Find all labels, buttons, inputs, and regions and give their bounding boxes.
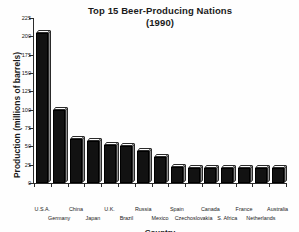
x-tick-mark xyxy=(202,183,203,187)
bar xyxy=(272,168,284,183)
bar xyxy=(70,139,82,183)
bar-face xyxy=(120,146,132,183)
bar-side xyxy=(132,143,135,183)
bar xyxy=(238,168,250,183)
x-tick-label: Canada xyxy=(201,206,220,212)
bar xyxy=(171,167,183,183)
bar-face xyxy=(104,145,116,183)
bar-side xyxy=(183,164,186,183)
x-tick-label: Netherlands xyxy=(246,215,275,221)
bar-face xyxy=(36,33,48,183)
x-tick-label: S. Africa xyxy=(217,215,237,221)
bar-face xyxy=(238,168,250,183)
bar-face xyxy=(87,141,99,183)
bar-side xyxy=(166,155,169,183)
bar-top xyxy=(70,136,85,139)
bar-face xyxy=(188,168,200,183)
x-tick-mark xyxy=(286,183,287,187)
x-tick-mark xyxy=(252,183,253,187)
x-tick-label: China xyxy=(69,206,83,212)
x-tick-mark xyxy=(101,183,102,187)
bar-top xyxy=(238,165,253,168)
x-tick-mark xyxy=(135,183,136,187)
bar-face xyxy=(204,168,216,183)
x-tick-mark xyxy=(168,183,169,187)
bar-face xyxy=(171,167,183,183)
y-tick-label: 0 xyxy=(28,180,31,186)
bar-top xyxy=(221,165,236,168)
bar-top xyxy=(104,142,119,145)
bar-top xyxy=(255,165,270,168)
y-tick-label: 200 xyxy=(22,33,31,39)
x-axis-line xyxy=(33,183,286,184)
chart-figure: Top 15 Beer-Producing Nations (1990) Pro… xyxy=(0,0,299,232)
x-tick-label: Russia xyxy=(135,206,151,212)
bar-face xyxy=(255,168,267,183)
bar xyxy=(255,168,267,183)
bar-side xyxy=(82,136,85,183)
x-tick-mark xyxy=(152,183,153,187)
bar xyxy=(154,157,166,183)
x-tick-mark xyxy=(68,183,69,187)
x-axis-title: Country xyxy=(34,228,286,232)
bar xyxy=(87,141,99,183)
bar xyxy=(204,168,216,183)
bar-side xyxy=(99,139,102,183)
bar-face xyxy=(154,157,166,183)
bar-face xyxy=(272,168,284,183)
bar xyxy=(221,168,233,183)
y-tick-label: 75 xyxy=(25,125,31,131)
bar-side xyxy=(149,149,152,183)
bar-top xyxy=(171,164,186,167)
bar-top xyxy=(53,107,68,110)
x-tick-mark xyxy=(269,183,270,187)
bar-side xyxy=(116,142,119,183)
x-tick-mark xyxy=(118,183,119,187)
y-tick-label: 50 xyxy=(25,143,31,149)
bar xyxy=(120,146,132,183)
x-tick-label: Mexico xyxy=(151,215,168,221)
bar-face xyxy=(221,168,233,183)
x-tick-label: U.K. xyxy=(104,206,114,212)
x-tick-mark xyxy=(84,183,85,187)
x-tick-mark xyxy=(51,183,52,187)
x-tick-label: Japan xyxy=(85,215,100,221)
y-axis-line xyxy=(33,18,34,184)
bar-top xyxy=(87,138,102,141)
x-tick-label: France xyxy=(236,206,253,212)
x-tick-mark xyxy=(236,183,237,187)
bar-face xyxy=(70,139,82,183)
bar-side xyxy=(65,107,68,183)
bar xyxy=(53,110,65,183)
bar-side xyxy=(233,165,236,183)
y-tick-label: 125 xyxy=(22,88,31,94)
y-tick-label: 100 xyxy=(22,107,31,113)
bar xyxy=(137,151,149,183)
plot-area: 0255075100125150175200225 U.S.A.GermanyC… xyxy=(34,18,286,183)
y-tick-label: 225 xyxy=(22,15,31,21)
chart-title: Top 15 Beer-Producing Nations xyxy=(70,5,250,17)
bar-side xyxy=(284,166,287,183)
bar-side xyxy=(216,165,219,183)
x-tick-mark xyxy=(185,183,186,187)
x-tick-mark xyxy=(34,183,35,187)
bar-side xyxy=(250,165,253,183)
bar-face xyxy=(53,110,65,183)
x-tick-label: Brazil xyxy=(120,215,133,221)
x-tick-mark xyxy=(219,183,220,187)
y-axis-title: Production (millions of barrels) xyxy=(12,40,22,190)
bar xyxy=(188,168,200,183)
y-tick-label: 175 xyxy=(22,52,31,58)
x-tick-label: Germany xyxy=(48,215,70,221)
bar-top xyxy=(272,165,287,168)
x-tick-label: Australia xyxy=(267,206,288,212)
bar xyxy=(36,33,48,183)
y-tick-label: 150 xyxy=(22,70,31,76)
bar-side xyxy=(48,30,51,183)
x-tick-label: U.S.A. xyxy=(35,206,51,212)
bar-face xyxy=(137,151,149,183)
y-tick-label: 25 xyxy=(25,162,31,168)
x-tick-label: Spain xyxy=(170,206,184,212)
bar xyxy=(104,145,116,183)
bar-top xyxy=(188,165,203,168)
